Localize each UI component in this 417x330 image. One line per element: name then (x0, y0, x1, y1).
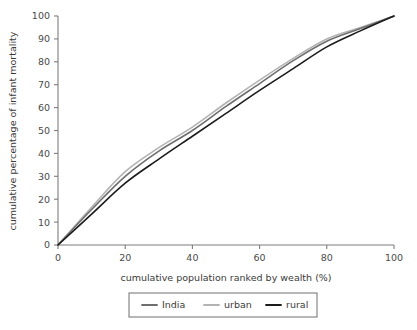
lorenz-curve-chart: cumulative percentage of infant mortalit… (0, 0, 417, 330)
y-tick-label: 60 (38, 102, 50, 113)
chart-series-group (58, 16, 394, 245)
x-tick-label: 60 (254, 252, 266, 263)
y-axis-ticks: 0102030405060708090100 (32, 10, 58, 250)
y-tick-label: 90 (38, 33, 50, 44)
series-line-rural (58, 16, 394, 245)
x-axis-title: cumulative population ranked by wealth (… (120, 272, 331, 283)
y-tick-label: 50 (38, 125, 50, 136)
y-tick-label: 0 (44, 239, 50, 250)
series-line-india (58, 16, 394, 245)
legend-label-india: India (162, 299, 185, 310)
legend-label-urban: urban (224, 299, 252, 310)
x-axis-ticks: 020406080100 (55, 245, 403, 263)
y-axis-title: cumulative percentage of infant mortalit… (7, 31, 18, 230)
y-tick-label: 100 (32, 10, 50, 21)
chart-figure: cumulative percentage of infant mortalit… (0, 0, 417, 330)
x-tick-label: 0 (55, 252, 61, 263)
legend-items: Indiaurbanrural (142, 299, 308, 310)
x-tick-label: 80 (321, 252, 333, 263)
x-tick-label: 100 (385, 252, 403, 263)
y-tick-label: 10 (38, 217, 50, 228)
y-tick-label: 80 (38, 56, 50, 67)
x-tick-label: 20 (119, 252, 131, 263)
y-tick-label: 70 (38, 79, 50, 90)
y-tick-label: 40 (38, 148, 50, 159)
x-tick-label: 40 (186, 252, 198, 263)
legend-label-rural: rural (286, 299, 308, 310)
series-line-urban (58, 16, 394, 245)
y-tick-label: 30 (38, 171, 50, 182)
y-tick-label: 20 (38, 194, 50, 205)
